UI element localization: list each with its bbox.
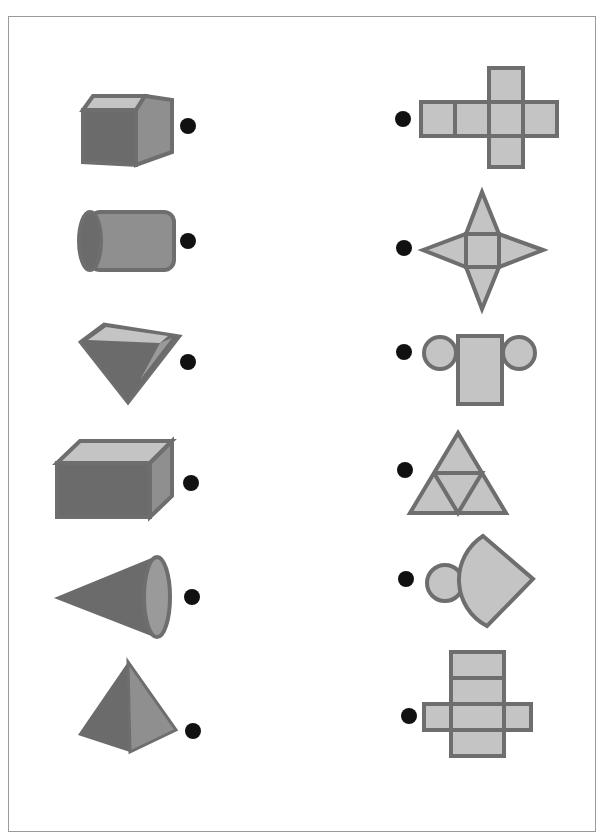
dot-solid-inverted-pyramid[interactable]	[180, 354, 196, 370]
net-cube	[421, 68, 557, 167]
net-square-pyramid	[423, 192, 543, 309]
net-cylinder	[424, 336, 535, 404]
dot-solid-cylinder[interactable]	[180, 233, 196, 249]
solid-cone	[54, 557, 170, 637]
dot-solid-rect-prism[interactable]	[183, 475, 199, 491]
dot-net-rect-prism[interactable]	[401, 708, 417, 724]
dot-net-cone[interactable]	[398, 571, 414, 587]
solid-inverted-pyramid	[80, 324, 180, 403]
solid-rect-prism	[57, 441, 172, 517]
dot-net-cylinder[interactable]	[396, 344, 412, 360]
net-cone	[427, 536, 533, 626]
dot-solid-tetrahedron[interactable]	[185, 723, 201, 739]
solid-cylinder	[79, 212, 174, 270]
solid-tetrahedron	[78, 662, 176, 752]
dot-net-cube[interactable]	[395, 111, 411, 127]
solid-cube	[83, 96, 172, 165]
dot-solid-cube[interactable]	[180, 118, 196, 134]
dot-net-square-pyramid[interactable]	[396, 240, 412, 256]
dot-net-tetrahedron[interactable]	[397, 462, 413, 478]
net-rect-prism	[424, 652, 531, 756]
net-tetrahedron	[410, 433, 506, 513]
dot-solid-cone[interactable]	[184, 589, 200, 605]
